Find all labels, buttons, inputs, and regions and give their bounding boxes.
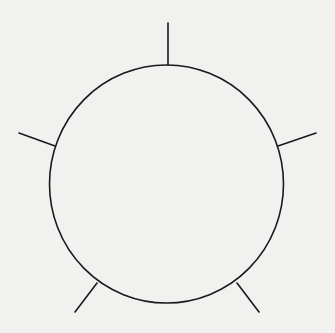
main-circle: [50, 65, 284, 303]
spoke-upper-right: [278, 133, 316, 146]
spoke-lower-left: [75, 283, 97, 312]
spoke-lower-right: [237, 283, 259, 312]
circle-with-spokes-diagram: [0, 0, 335, 333]
spoke-upper-left: [19, 133, 55, 146]
